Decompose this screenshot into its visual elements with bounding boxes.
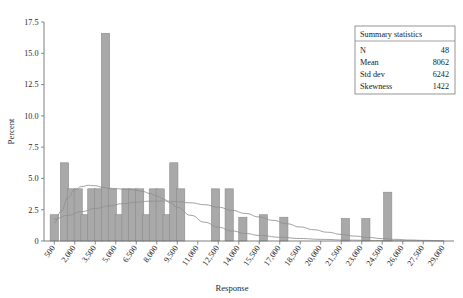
- summary-stat-label: N: [360, 46, 366, 55]
- histogram-bar: [211, 189, 219, 241]
- x-axis-tick-label: 18,500: [283, 244, 303, 268]
- histogram-chart: 02.55.07.510.012.515.017.55002,0003,5005…: [0, 0, 463, 298]
- x-axis-tick-label: 500: [42, 244, 56, 259]
- x-axis-tick-label: 24,500: [365, 244, 385, 268]
- x-axis-tick-label: 2,000: [59, 244, 77, 264]
- x-axis-tick-label: 3,500: [80, 244, 98, 264]
- y-axis-tick-label: 7.5: [28, 143, 38, 152]
- y-axis-tick-label: 17.5: [24, 18, 38, 27]
- y-axis-tick-label: 10.0: [24, 112, 38, 121]
- x-axis-tick-label: 17,000: [262, 244, 282, 268]
- x-axis-tick-label: 8,000: [141, 244, 159, 264]
- x-axis-tick-label: 11,000: [180, 244, 200, 267]
- y-axis-tick-label: 2.5: [28, 206, 38, 215]
- summary-box-title: Summary statistics: [360, 30, 422, 39]
- x-axis-tick-label: 29,000: [426, 244, 446, 268]
- x-axis-tick-label: 23,000: [344, 244, 364, 268]
- y-axis-tick-label: 12.5: [24, 80, 38, 89]
- summary-stat-value: 8062: [433, 58, 449, 67]
- summary-stat-label: Skewness: [360, 82, 392, 91]
- x-axis-tick-label: 27,500: [406, 244, 426, 268]
- x-axis-tick-label: 21,500: [324, 244, 344, 268]
- histogram-bar: [341, 218, 349, 241]
- y-axis-tick-label: 15.0: [24, 49, 38, 58]
- summary-stat-label: Std dev: [360, 70, 386, 79]
- histogram-bar: [225, 189, 233, 241]
- summary-stat-value: 6242: [433, 70, 449, 79]
- histogram-bar: [384, 192, 392, 241]
- x-axis-tick-label: 9,500: [162, 244, 180, 264]
- x-axis-tick-label: 15,500: [242, 244, 262, 268]
- chart-canvas: 02.55.07.510.012.515.017.55002,0003,5005…: [0, 0, 463, 298]
- bars-group: [50, 33, 392, 241]
- histogram-bar: [177, 189, 185, 241]
- x-axis-tick-label: 6,500: [121, 244, 139, 264]
- x-axis-tick-label: 12,500: [201, 244, 221, 268]
- x-axis-tick-label: 26,000: [385, 244, 405, 268]
- summary-stat-value: 48: [441, 46, 449, 55]
- summary-statistics-box: Summary statisticsN48Mean8062Std dev6242…: [355, 26, 455, 94]
- y-axis-tick-label: 5.0: [28, 174, 38, 183]
- summary-stat-label: Mean: [360, 58, 379, 67]
- x-axis-title: Response: [216, 283, 249, 293]
- x-axis-tick-label: 20,000: [303, 244, 323, 268]
- x-axis-tick-label: 14,000: [221, 244, 241, 268]
- histogram-bar: [239, 217, 247, 241]
- x-axis-tick-label: 5,000: [100, 244, 118, 264]
- summary-stat-value: 1422: [433, 82, 449, 91]
- y-axis-tick-label: 0: [34, 237, 38, 246]
- y-axis-title: Percent: [6, 118, 16, 144]
